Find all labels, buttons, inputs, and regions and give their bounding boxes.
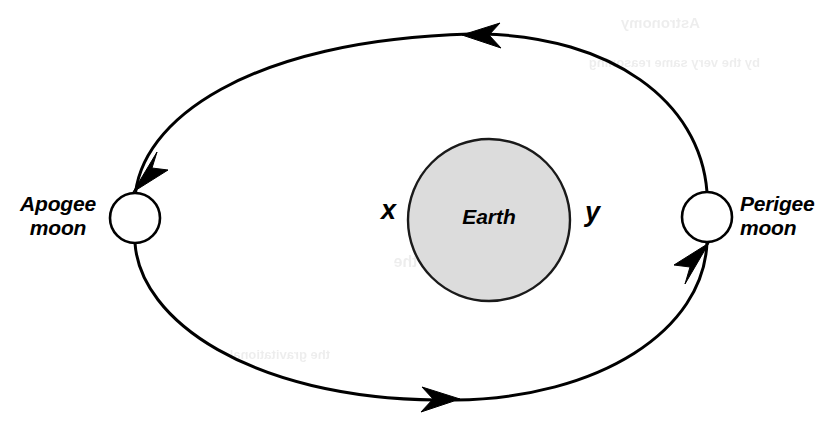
orbit-diagram-figure: Astronomy by the very same reasoning the…: [0, 0, 836, 434]
perigee-moon-circle: [682, 192, 732, 242]
perigee-moon-label-line2: moon: [740, 216, 796, 239]
perigee-moon-label-line1: Perigee: [740, 192, 814, 215]
apogee-moon-label-line2: moon: [30, 216, 86, 239]
point-y-label: y: [585, 197, 600, 228]
earth-label: Earth: [440, 205, 538, 229]
orbit-arc-top-left: [135, 34, 470, 200]
point-x-label: x: [381, 195, 396, 226]
orbit-diagram-canvas: [0, 0, 836, 434]
apogee-approach-arrow-icon: [133, 152, 168, 192]
perigee-moon-label: Perigee moon: [740, 192, 836, 241]
orbit-arc-bottom-left: [135, 243, 437, 400]
apogee-moon-circle: [110, 193, 160, 243]
apogee-moon-label-line1: Apogee: [20, 192, 96, 215]
apogee-moon-label: Apogee moon: [8, 192, 108, 241]
